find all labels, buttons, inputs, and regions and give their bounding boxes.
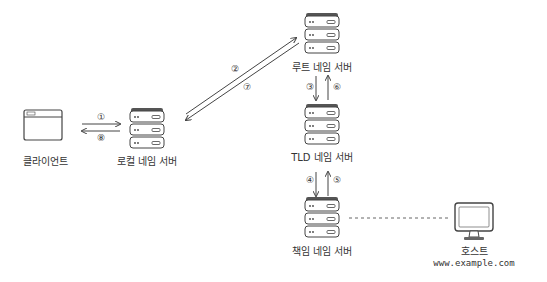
root-dns-label: 루트 네임 서버 [292, 59, 352, 74]
authoritative-dns-label: 책임 네임 서버 [292, 243, 352, 258]
step-8: ⑧ [97, 133, 105, 143]
server-icon-local [130, 108, 164, 148]
step-1: ① [97, 112, 105, 122]
host-domain: www.example.com [433, 258, 514, 268]
monitor-icon [455, 203, 493, 240]
connection-lines [0, 0, 547, 282]
client-label: 클라이언트 [23, 153, 68, 168]
browser-window-icon [24, 110, 62, 140]
server-icon-tld [305, 104, 339, 144]
step-7: ⑦ [243, 82, 251, 92]
step-4: ④ [306, 175, 314, 185]
tld-dns-label: TLD 네임 서버 [291, 149, 353, 164]
arrow-step-2 [186, 38, 296, 114]
step-2: ② [231, 64, 239, 74]
step-5: ⑤ [333, 175, 341, 185]
step-6: ⑥ [333, 82, 341, 92]
host-label: 호스트 [461, 243, 488, 258]
server-icon-authoritative [305, 197, 339, 237]
local-dns-label: 로컬 네임 서버 [117, 153, 177, 168]
step-3: ③ [306, 82, 314, 92]
server-icon-root [305, 13, 339, 53]
